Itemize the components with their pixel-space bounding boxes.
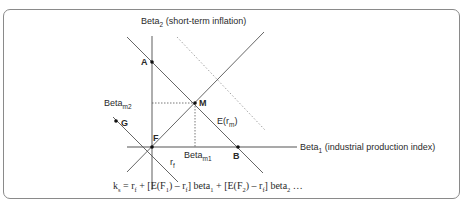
label-b: B: [233, 151, 240, 161]
y-axis-label: Beta2 (short-term inflation): [141, 16, 246, 28]
point-b: [236, 145, 240, 149]
expected-return-label: E(rm): [217, 116, 237, 128]
x-axis-label: Beta1 (industrial production index): [300, 142, 435, 154]
rf-label: rf: [170, 157, 175, 169]
point-f: [150, 145, 154, 149]
point-a: [150, 60, 154, 64]
label-g: G: [121, 118, 128, 128]
apt-diagram: Beta2 (short-term inflation) Beta1 (indu…: [0, 0, 466, 206]
label-a: A: [141, 57, 148, 67]
label-m: M: [199, 98, 207, 108]
beta-m1-label: Betam1: [184, 150, 212, 162]
point-m: [193, 101, 197, 105]
apt-formula: ks = rf + [E(F1) – rf] beta1 + [E(F2) – …: [113, 180, 303, 193]
beta-m2-label: Betam2: [104, 98, 132, 110]
point-g: [114, 119, 118, 123]
label-f: F: [153, 133, 159, 143]
